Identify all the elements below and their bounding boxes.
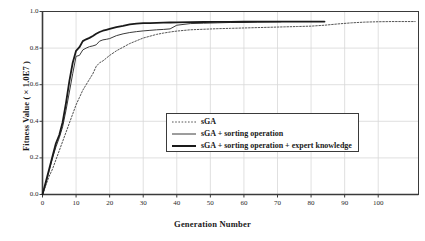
legend-item-sga: sGA [171, 116, 216, 128]
gridlines [43, 12, 419, 195]
x-tick-label: 50 [196, 199, 224, 207]
legend-item-sga-sorting: sGA + sorting operation [171, 128, 283, 140]
legend-label-sga: sGA [201, 117, 216, 127]
legend-label-sga-sorting-expert: sGA + sorting operation + expert knowled… [201, 141, 352, 151]
x-tick-label: 100 [364, 199, 392, 207]
x-axis-title: Generation Number [0, 219, 425, 229]
series-line-0 [43, 22, 416, 195]
legend: sGA sGA + sorting operation sGA + sortin… [166, 113, 359, 152]
legend-label-sga-sorting: sGA + sorting operation [201, 129, 283, 139]
y-tick-label: 0.0 [9, 190, 39, 198]
legend-item-sga-sorting-expert: sGA + sorting operation + expert knowled… [171, 140, 352, 152]
x-tick-label: 30 [129, 199, 157, 207]
plot-frame [43, 12, 419, 195]
series-line-2 [43, 22, 325, 195]
y-tick-label: 1.0 [9, 7, 39, 15]
x-tick-label: 70 [264, 199, 292, 207]
y-axis-title: Fitness Value ( × 1.0E7 ) [21, 36, 31, 176]
legend-sample-thin-solid [171, 129, 197, 139]
x-tick-label: 80 [297, 199, 325, 207]
x-tick-label: 0 [29, 199, 57, 207]
fitness-convergence-chart: 0102030405060708090100 0.00.20.40.60.81.… [0, 0, 425, 241]
x-tick-label: 40 [163, 199, 191, 207]
x-tick-label: 90 [331, 199, 359, 207]
x-tick-label: 20 [96, 199, 124, 207]
tick-marks [40, 12, 379, 198]
x-tick-label: 60 [230, 199, 258, 207]
data-series-group [43, 22, 416, 195]
x-tick-label: 10 [62, 199, 90, 207]
legend-sample-dotted [171, 117, 197, 127]
legend-sample-thick-solid [171, 141, 197, 151]
